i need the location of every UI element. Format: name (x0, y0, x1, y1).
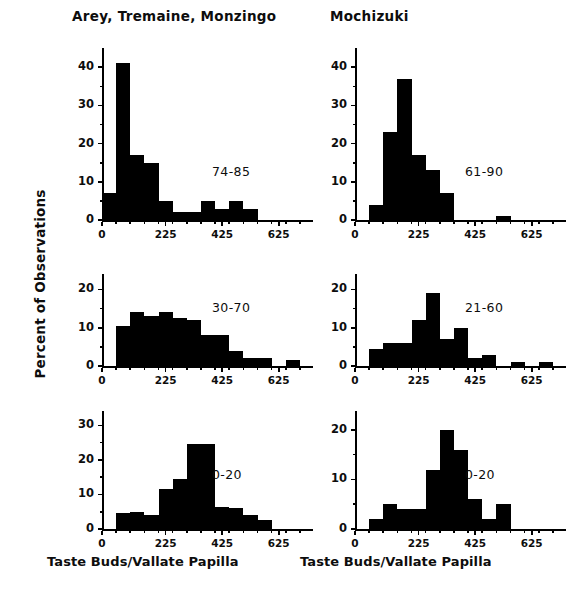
x-tick-minor (243, 368, 245, 371)
y-axis-line (102, 274, 104, 367)
y-tick-minor (100, 442, 103, 444)
x-tick-minor (214, 531, 216, 534)
x-tick-minor (144, 222, 146, 225)
histogram-bar (229, 508, 243, 529)
histogram-bar (482, 519, 496, 529)
x-tick-minor (397, 222, 399, 225)
x-tick (354, 368, 356, 372)
y-tick-label: 40 (60, 59, 94, 73)
histogram-bar (258, 358, 272, 366)
panel-annotation: 21-60 (465, 300, 503, 315)
x-tick-label: 425 (198, 537, 246, 549)
histogram-bar (116, 513, 130, 529)
y-tick-label: 10 (313, 471, 347, 485)
histogram-bar (383, 343, 397, 366)
x-tick-minor (129, 368, 131, 371)
y-tick (351, 181, 355, 183)
histogram-bar (173, 318, 187, 366)
x-tick-minor (115, 531, 117, 534)
y-tick-minor (100, 162, 103, 164)
y-tick-minor (100, 511, 103, 513)
histogram-bar (130, 512, 144, 529)
histogram-bar (130, 312, 144, 366)
histogram-bar (187, 212, 201, 220)
x-tick-minor (538, 531, 540, 534)
y-tick (98, 528, 102, 530)
y-tick-label: 10 (60, 174, 94, 188)
x-tick-minor (510, 531, 512, 534)
histogram-bar (144, 163, 158, 220)
y-tick-minor (353, 86, 356, 88)
histogram-bar (116, 326, 130, 366)
panel-annotation: 30-70 (212, 300, 250, 315)
y-tick-minor (100, 476, 103, 478)
x-tick-minor (368, 531, 370, 534)
x-tick-minor (481, 368, 483, 371)
x-tick (165, 368, 167, 372)
x-tick-label: 225 (142, 537, 190, 549)
x-tick-minor (285, 222, 287, 225)
x-tick-minor (524, 368, 526, 371)
x-tick-minor (538, 222, 540, 225)
panel-annotation: 0-20 (212, 467, 242, 482)
x-tick-minor (271, 222, 273, 225)
x-tick-minor (510, 222, 512, 225)
x-tick-minor (439, 222, 441, 225)
x-tick (354, 531, 356, 535)
x-tick-label: 625 (508, 537, 556, 549)
histogram-bar (397, 509, 411, 529)
histogram-bar (482, 355, 496, 366)
x-tick-minor (481, 222, 483, 225)
x-tick (101, 368, 103, 372)
x-tick-label: 425 (451, 228, 499, 240)
histogram-bar (383, 132, 397, 220)
x-tick (278, 368, 280, 372)
x-tick (165, 531, 167, 535)
histogram-bar (468, 358, 482, 366)
y-tick-label: 0 (313, 358, 347, 372)
histogram-bar (454, 450, 468, 529)
x-tick (531, 368, 533, 372)
x-tick-minor (397, 531, 399, 534)
x-tick-minor (299, 368, 301, 371)
x-tick-minor (271, 531, 273, 534)
y-tick (98, 143, 102, 145)
x-tick-label: 425 (198, 374, 246, 386)
histogram-bar (440, 193, 454, 220)
x-tick-minor (172, 531, 174, 534)
x-tick-minor (439, 368, 441, 371)
histogram-bar (426, 293, 440, 366)
x-tick-minor (228, 368, 230, 371)
histogram-bar (426, 170, 440, 220)
x-tick-minor (496, 222, 498, 225)
x-tick-minor (496, 531, 498, 534)
x-tick-label: 0 (331, 228, 379, 240)
y-tick (98, 425, 102, 427)
panel-middle-left: 01020022542562530-70 (60, 278, 305, 400)
y-tick (98, 66, 102, 68)
y-tick-label: 0 (60, 358, 94, 372)
x-tick-label: 0 (331, 537, 379, 549)
y-tick (98, 494, 102, 496)
x-tick-minor (172, 222, 174, 225)
x-tick-label: 625 (508, 228, 556, 240)
x-tick-minor (200, 368, 202, 371)
x-tick-minor (186, 368, 188, 371)
y-tick-minor (100, 86, 103, 88)
histogram-bar (201, 335, 215, 366)
x-tick (165, 222, 167, 226)
x-tick-minor (158, 368, 160, 371)
x-tick-minor (453, 531, 455, 534)
histogram-bar (440, 430, 454, 529)
y-tick-label: 10 (60, 486, 94, 500)
y-tick-minor (353, 200, 356, 202)
x-tick-minor (158, 531, 160, 534)
x-tick-label: 225 (142, 228, 190, 240)
x-tick-minor (172, 368, 174, 371)
x-axis-line (102, 366, 313, 368)
histogram-bar (144, 515, 158, 529)
x-tick (418, 368, 420, 372)
x-tick-minor (257, 368, 259, 371)
histogram-bar (229, 201, 243, 220)
